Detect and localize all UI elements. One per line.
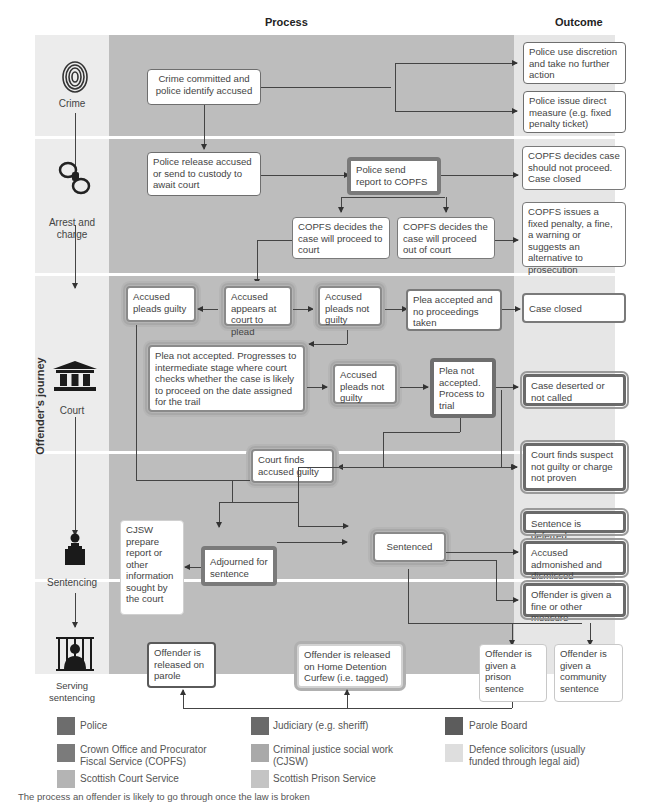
legend-label-judiciary: Judiciary (e.g. sheriff) <box>273 720 368 732</box>
connector <box>408 569 409 623</box>
connector-arrow <box>198 309 218 310</box>
legend-label-prison-service: Scottish Prison Service <box>273 773 376 785</box>
box-copfs-not-proceed: COPFS decides case should not proceed. C… <box>522 146 626 190</box>
connector-arrow <box>261 175 349 176</box>
box-court-not-guilty: Court finds suspect not guilty or charge… <box>523 443 626 491</box>
legend-label-parole-board: Parole Board <box>469 720 527 732</box>
connector <box>341 197 445 198</box>
stage-serving-label: Serving sentencing <box>35 680 109 704</box>
box-plea-not-accepted-intermediate: Plea not accepted. Progresses to interme… <box>148 345 305 412</box>
handcuffs-icon <box>58 160 92 196</box>
connector-arrow <box>441 175 518 176</box>
box-admonished: Accused admonished and dismissed <box>523 541 626 575</box>
connector <box>408 623 582 624</box>
connector-arrow <box>307 387 327 388</box>
connector-arrow <box>183 690 184 708</box>
connector-arrow <box>395 63 517 64</box>
journey-arrow <box>75 417 76 535</box>
connector <box>383 432 384 467</box>
connector <box>496 560 497 600</box>
connector-arrow <box>495 240 518 241</box>
connector <box>501 390 502 467</box>
connector-arrow <box>293 309 313 310</box>
fingerprint-icon <box>61 60 89 94</box>
connector-arrow <box>385 309 407 310</box>
connector <box>219 502 232 503</box>
legend-label-defence: Defence solicitors (usually funded throu… <box>469 744 599 768</box>
stage-court-label: Court <box>35 405 109 417</box>
box-sentence-deferred: Sentence is deferred <box>523 511 626 533</box>
prison-bars-icon <box>55 636 95 672</box>
box-fine-other: Offender is given a fine or other measur… <box>523 583 626 617</box>
connector <box>258 240 292 241</box>
box-appears-to-plead: Accused appears at court to plead <box>224 286 292 326</box>
box-prison-sentence: Offender is given a prison sentence <box>479 644 547 702</box>
connector <box>446 560 496 561</box>
box-plea-not-accepted-trial: Plea not accepted. Process to trial <box>430 358 496 418</box>
outcome-header: Outcome <box>555 16 603 28</box>
box-released-parole: Offender is released on parole <box>147 642 216 688</box>
connector-arrow <box>298 526 348 527</box>
connector-arrow <box>590 623 591 645</box>
connector-arrow <box>496 600 518 601</box>
figure-caption: The process an offender is likely to go … <box>18 791 310 802</box>
connector-arrow <box>446 552 518 553</box>
box-pleads-not-guilty-1: Accused pleads not guilty <box>318 286 382 326</box>
connector-arrow <box>446 197 447 212</box>
box-court-finds-guilty: Court finds accused guilty <box>251 449 334 483</box>
connector-arrow <box>219 502 220 527</box>
box-cjsw-report: CJSW prepare report or other information… <box>120 520 184 615</box>
box-copfs-fixed-penalty: COPFS issues a fixed penalty, a fine, a … <box>522 202 626 267</box>
legend-swatch-police <box>57 717 75 735</box>
box-crime-committed: Crime committed and police identify accu… <box>147 69 261 105</box>
stage-crime-label: Crime <box>35 98 109 110</box>
courthouse-icon <box>51 360 99 392</box>
connector <box>261 87 391 88</box>
box-police-discretion: Police use discretion and take no furthe… <box>523 42 626 84</box>
legend-label-copfs: Crown Office and Procurator Fiscal Servi… <box>80 744 230 768</box>
legend-swatch-cjsw <box>251 744 269 762</box>
box-adjourned: Adjourned for sentence <box>201 546 277 586</box>
box-police-release: Police release accused or send to custod… <box>147 152 261 196</box>
connector <box>512 702 513 708</box>
box-case-deserted: Case deserted or not called <box>523 374 626 406</box>
legend-swatch-copfs <box>57 744 75 762</box>
connector <box>383 432 460 433</box>
journey-arrow <box>75 593 76 627</box>
legend-swatch-parole-board <box>445 717 463 735</box>
connector-arrow <box>298 467 516 468</box>
legend-label-cjsw: Criminal justice social work (CJSW) <box>273 744 403 768</box>
connector <box>136 325 137 480</box>
connector <box>347 330 348 344</box>
connector-arrow <box>512 623 513 645</box>
connector <box>395 63 396 111</box>
connector <box>232 480 250 481</box>
box-copfs-to-court: COPFS decides the case will proceed to c… <box>292 217 390 259</box>
process-header: Process <box>265 16 308 28</box>
box-police-send-report: Police send report to COPFS <box>347 157 441 195</box>
legend-label-court-service: Scottish Court Service <box>80 773 179 785</box>
box-police-direct-measure: Police issue direct measure (e.g. fixed … <box>523 91 626 133</box>
box-copfs-out-of-court: COPFS decides the case will proceed out … <box>397 217 495 259</box>
connector-arrow <box>496 387 518 388</box>
connector-arrow <box>395 111 517 112</box>
connector-arrow <box>347 690 348 708</box>
legend-swatch-defence <box>445 744 463 762</box>
legend-label-police: Police <box>80 720 107 732</box>
connector-arrow <box>257 240 258 284</box>
connector <box>136 480 232 481</box>
box-sentenced: Sentenced <box>373 532 446 562</box>
connector-arrow <box>185 567 201 568</box>
judge-icon <box>62 533 88 565</box>
legend-swatch-prison-service <box>251 770 269 788</box>
legend-swatch-judiciary <box>251 717 269 735</box>
connector <box>183 708 512 709</box>
connector <box>232 502 298 503</box>
connector-arrow <box>341 197 342 212</box>
box-community-sentence: Offender is given a community sentence <box>554 644 623 702</box>
stage-sentencing-label: Sentencing <box>35 577 109 589</box>
connector <box>232 480 233 502</box>
box-pleads-guilty: Accused pleads guilty <box>126 286 196 322</box>
connector-arrow <box>277 542 347 543</box>
legend-swatch-court-service <box>57 770 75 788</box>
